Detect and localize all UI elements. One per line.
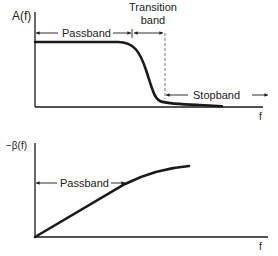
transition-band-label-line2: band bbox=[126, 14, 180, 26]
transition-band-label-line1: Transition bbox=[126, 1, 180, 13]
phase-x-label: f bbox=[259, 241, 262, 253]
stopband-label: Stopband bbox=[191, 89, 242, 101]
amplitude-x-label: f bbox=[259, 111, 262, 123]
phase-y-label: −β(f) bbox=[6, 140, 27, 152]
phase-plot bbox=[35, 143, 268, 237]
amplitude-y-label: A(f) bbox=[12, 10, 31, 22]
phase-passband-label: Passband bbox=[58, 177, 111, 189]
passband-label: Passband bbox=[60, 27, 113, 39]
filter-response-diagram bbox=[0, 0, 278, 256]
